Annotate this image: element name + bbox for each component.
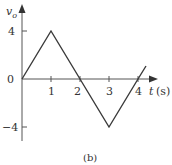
x-tick-label-4: 4 bbox=[135, 85, 142, 98]
y-tick-label-neg4: −4 bbox=[2, 121, 18, 134]
x-tick-label-3: 3 bbox=[106, 85, 113, 98]
x-tick-label-1: 1 bbox=[48, 85, 55, 98]
y-axis-arrow-icon bbox=[19, 4, 26, 13]
waveform-chart: vo 4 0 −4 1 2 3 4 t (s) (b) bbox=[0, 0, 172, 165]
x-axis-unit: (s) bbox=[156, 85, 170, 98]
figure-caption: (b) bbox=[83, 152, 97, 163]
y-axis-label: vo bbox=[6, 5, 17, 20]
x-tick-label-2: 2 bbox=[74, 85, 81, 98]
y-tick-label-0: 0 bbox=[7, 73, 14, 86]
x-axis-arrow-icon bbox=[149, 76, 158, 83]
x-axis-label: t bbox=[149, 85, 154, 98]
y-tick-label-4: 4 bbox=[8, 25, 15, 38]
